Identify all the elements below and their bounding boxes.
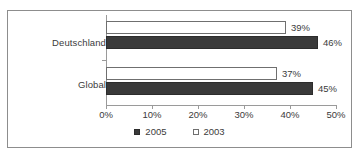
- bar-deutschland-2003[interactable]: [106, 21, 286, 34]
- axis-label-10: 10%: [132, 109, 172, 120]
- axis-label-20: 20%: [178, 109, 218, 120]
- category-label-deutschland: Deutschland: [14, 37, 106, 48]
- bar-value-global-2005: 45%: [318, 82, 337, 95]
- bar-global-2003[interactable]: [106, 67, 277, 80]
- legend-label-2005: 2005: [145, 126, 166, 137]
- category-separator-tick: [102, 60, 106, 61]
- legend-swatch-2005-icon: [134, 129, 140, 135]
- bar-value-global-2003: 37%: [282, 67, 301, 80]
- legend-label-2003: 2003: [204, 126, 225, 137]
- legend-item-2003[interactable]: 2003: [193, 126, 225, 137]
- legend-swatch-2003-icon: [193, 129, 199, 135]
- chart-container: Deutschland Global 39% 46% 37% 45% 0% 10…: [7, 10, 352, 148]
- bar-value-deutschland-2003: 39%: [291, 21, 310, 34]
- bar-value-deutschland-2005: 46%: [323, 36, 342, 49]
- axis-label-40: 40%: [270, 109, 310, 120]
- legend-item-2005[interactable]: 2005: [134, 126, 166, 137]
- bar-deutschland-2005[interactable]: [106, 36, 318, 49]
- chart-legend: 2005 2003: [8, 126, 351, 137]
- category-label-global: Global: [14, 79, 106, 90]
- category-axis-line: [106, 105, 337, 106]
- axis-label-0: 0%: [86, 109, 126, 120]
- plot-area: 39% 46% 37% 45%: [106, 19, 337, 105]
- bar-global-2005[interactable]: [106, 82, 313, 95]
- axis-label-50: 50%: [316, 109, 356, 120]
- axis-label-30: 30%: [224, 109, 264, 120]
